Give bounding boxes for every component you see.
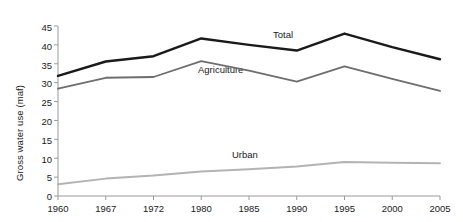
- series-line-urban: [58, 162, 440, 184]
- data-series-group: [58, 34, 440, 185]
- line-chart: Gross water use (maf) 45 40 35 30 25 20 …: [0, 0, 463, 222]
- axes: [54, 26, 440, 200]
- y-axis-ticks: [54, 26, 58, 196]
- series-line-total: [58, 34, 440, 76]
- series-line-agriculture: [58, 61, 440, 91]
- plot-area: [0, 0, 463, 222]
- x-axis-ticks: [58, 196, 440, 200]
